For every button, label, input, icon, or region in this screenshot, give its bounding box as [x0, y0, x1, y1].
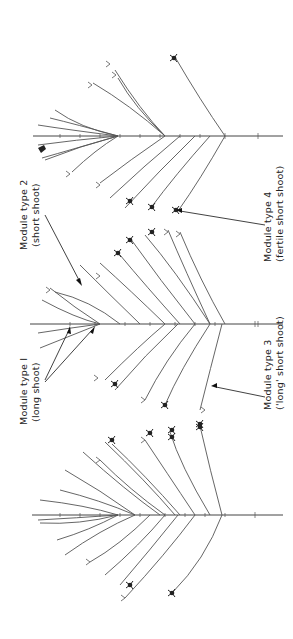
arrow-module-type-4: [176, 208, 265, 225]
arrow-module-type-2: [45, 215, 82, 286]
label-module-type-2: Module type 2 (short shoot): [18, 180, 41, 250]
label-module-type-2-line2: (short shoot): [30, 183, 41, 247]
arrow-module-type-3: [211, 383, 265, 397]
label-module-type-3-line1: Module type 3: [262, 340, 273, 410]
label-module-type-3-line2: ('long' short shoot): [274, 316, 285, 410]
arrow-module-type-1-a: [45, 326, 71, 380]
label-module-type-4: Module type 4 (fertile short shoot): [262, 166, 285, 262]
label-module-type-1-line1: Module type I: [18, 358, 29, 425]
label-module-type-3: Module type 3 ('long' short shoot): [262, 316, 285, 410]
label-module-type-2-line1: Module type 2: [18, 180, 29, 250]
tree-3: [32, 423, 283, 601]
module-diagram: Module type 2 (short shoot) Module type …: [0, 0, 293, 639]
tree-1: [33, 54, 283, 214]
label-module-type-1: Module type I (long shoot): [18, 358, 41, 425]
arrow-module-type-1-b: [45, 326, 95, 382]
label-module-type-1-line2: (long shoot): [30, 362, 41, 422]
label-module-type-4-line1: Module type 4: [262, 192, 273, 262]
label-module-type-4-line2: (fertile short shoot): [274, 166, 285, 262]
